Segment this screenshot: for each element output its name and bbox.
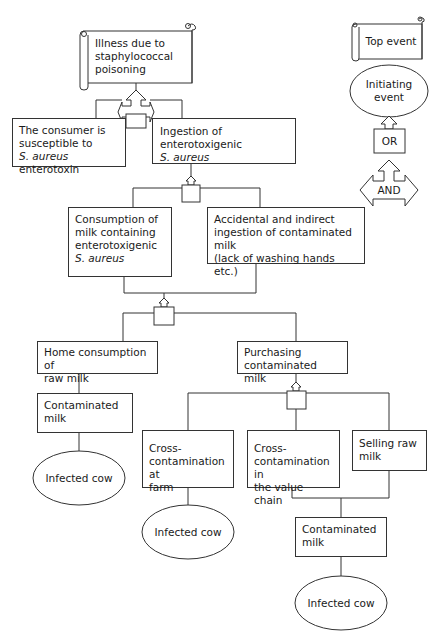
event-consumer-susceptible: The consumer is susceptible to S. aureus… (12, 118, 126, 167)
event-accidental-ingestion: Accidental and indirect ingestion of con… (207, 207, 365, 264)
event-home-contaminated-milk: Contaminated milk (37, 393, 133, 433)
event-home-consumption: Home consumption of raw milk (37, 341, 158, 374)
event-purchasing-contaminated: Purchasing contaminated milk (237, 341, 348, 374)
event-cross-contamination-chain: Cross- contamination in the value chain (247, 430, 340, 488)
legend-or-gate-label: OR (374, 135, 405, 148)
event-selling-raw-milk: Selling raw milk (352, 430, 427, 471)
event-chain-contaminated-milk: Contaminated milk (295, 517, 387, 557)
legend-top-event-label: Top event (360, 35, 422, 48)
top-event: Illness due to staphylococcal poisoning (95, 37, 190, 76)
initiating-event-home: Infected cow (33, 472, 125, 485)
event-ingestion-enterotoxigenic: Ingestion of enterotoxigenic S. aureus (152, 118, 296, 164)
event-cross-contamination-farm: Cross- contamination at farm (142, 430, 234, 488)
initiating-event-farm: Infected cow (142, 526, 234, 539)
legend-and-gate-label: AND (373, 184, 405, 197)
initiating-event-chain: Infected cow (295, 597, 387, 610)
event-consumption-milk: Consumption of milk containing enterotox… (68, 207, 172, 277)
legend-initiating-event-label: Initiating event (352, 78, 426, 104)
